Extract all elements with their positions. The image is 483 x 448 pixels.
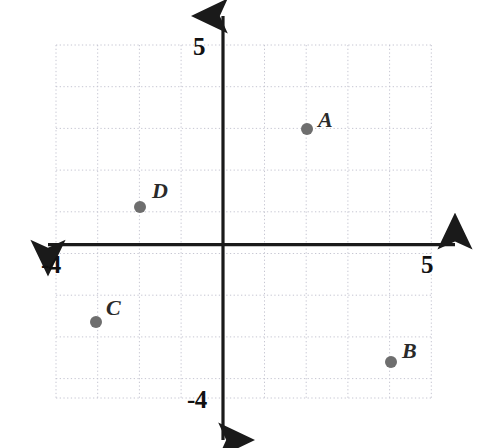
coordinate-plane-figure: 5 -4 5 -4 A B C D [0, 0, 483, 448]
plot-canvas [0, 0, 483, 448]
point-label-d: D [152, 180, 168, 202]
x-axis-left-label: -4 [41, 252, 61, 277]
point-label-c: C [106, 297, 121, 319]
x-axis-right-label: 5 [421, 252, 433, 277]
point-label-a: A [318, 109, 333, 131]
axis-lines [48, 16, 455, 440]
data-point-b [385, 356, 397, 368]
y-axis-bottom-label: -4 [187, 387, 207, 412]
data-point-a [301, 123, 313, 135]
point-label-b: B [402, 340, 417, 362]
data-point-c [90, 316, 102, 328]
data-point-d [134, 201, 146, 213]
grid-lines [56, 45, 431, 398]
y-axis-top-label: 5 [193, 34, 205, 59]
